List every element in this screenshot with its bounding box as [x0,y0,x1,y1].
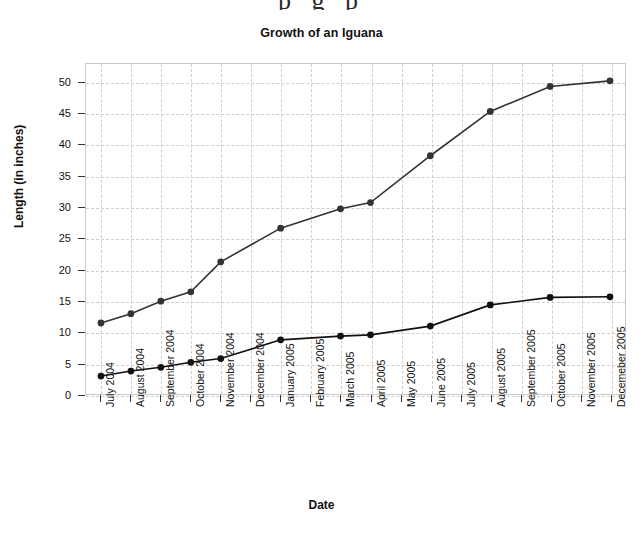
x-tick-label: November 2004 [224,332,236,407]
data-point-marker [367,331,374,338]
x-tick-label: October 2004 [194,343,206,407]
y-tick-mark [78,301,85,302]
data-point-marker [487,302,494,309]
y-tick-mark [78,144,85,145]
y-tick-mark [78,82,85,83]
y-tick-label: 45 [37,107,71,119]
y-tick-label: 20 [37,264,71,276]
y-tick-label: 50 [37,76,71,88]
x-tick-label: February 2005 [314,339,326,407]
y-tick-label: 40 [37,138,71,150]
x-tick-mark [100,395,101,402]
x-tick-mark [130,395,131,402]
x-tick-mark [401,395,402,402]
x-tick-mark [310,395,311,402]
data-point-marker [487,108,494,115]
x-tick-label: April 2005 [375,360,387,407]
y-tick-mark [78,113,85,114]
y-tick-label: 35 [37,170,71,182]
x-tick-label: October 2005 [555,343,567,407]
data-point-marker [427,323,434,330]
x-tick-mark [160,395,161,402]
x-tick-label: January 2005 [284,343,296,407]
x-tick-label: June 2005 [435,358,447,407]
y-tick-mark [78,270,85,271]
data-point-marker [367,199,374,206]
y-tick-mark [78,395,85,396]
data-point-marker [547,83,554,90]
data-point-marker [98,320,105,327]
x-tick-mark [190,395,191,402]
x-tick-mark [581,395,582,402]
y-tick-mark [78,238,85,239]
x-tick-mark [371,395,372,402]
y-tick-label: 15 [37,295,71,307]
x-tick-label: March 2005 [344,352,356,407]
data-point-marker [217,258,224,265]
data-point-marker [128,310,135,317]
x-tick-label: September 2004 [164,329,176,407]
chart-title: Growth of an Iguana [0,26,643,40]
x-tick-label: July 2005 [465,362,477,407]
y-tick-mark [78,176,85,177]
data-point-marker [427,152,434,159]
data-point-marker [277,336,284,343]
x-tick-mark [491,395,492,402]
x-tick-mark [250,395,251,402]
x-tick-label: July 2004 [104,362,116,407]
x-tick-mark [551,395,552,402]
data-point-marker [157,298,164,305]
data-point-marker [607,293,614,300]
data-point-marker [337,205,344,212]
data-point-marker [187,288,194,295]
x-tick-mark [220,395,221,402]
data-point-marker [547,294,554,301]
y-tick-label: 5 [37,358,71,370]
x-tick-label: December 2004 [254,332,266,407]
x-tick-mark [280,395,281,402]
y-tick-label: 30 [37,201,71,213]
x-tick-mark [611,395,612,402]
page-bleed-text: p g p [0,0,643,10]
data-point-marker [277,225,284,232]
x-tick-mark [461,395,462,402]
x-tick-label: November 2005 [585,332,597,407]
y-tick-label: 25 [37,232,71,244]
x-tick-mark [431,395,432,402]
x-tick-label: Decemeber 2005 [615,326,627,407]
y-tick-label: 10 [37,326,71,338]
data-point-marker [337,333,344,340]
x-tick-mark [340,395,341,402]
x-tick-label: May 2005 [405,361,417,407]
y-tick-mark [78,207,85,208]
series-line [101,81,610,323]
x-tick-label: August 2004 [134,348,146,407]
x-tick-mark [521,395,522,402]
data-point-marker [607,77,614,84]
x-tick-label: August 2005 [495,348,507,407]
x-tick-label: September 2005 [525,329,537,407]
y-axis-label: Length (in inches) [12,125,26,228]
y-tick-mark [78,364,85,365]
y-tick-mark [78,332,85,333]
y-tick-label: 0 [37,389,71,401]
x-axis-label: Date [0,498,643,512]
